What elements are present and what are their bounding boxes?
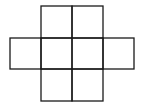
grid-diagram — [0, 0, 144, 105]
grid-lines — [10, 6, 134, 101]
cell-r1-c2 — [72, 38, 103, 69]
cell-r2-c2 — [72, 69, 103, 101]
cell-r0-c2 — [72, 6, 103, 38]
cell-r2-c1 — [41, 69, 72, 101]
cell-r1-c0 — [10, 38, 41, 69]
cell-r1-c3 — [103, 38, 134, 69]
cell-r1-c1 — [41, 38, 72, 69]
cell-r0-c1 — [41, 6, 72, 38]
